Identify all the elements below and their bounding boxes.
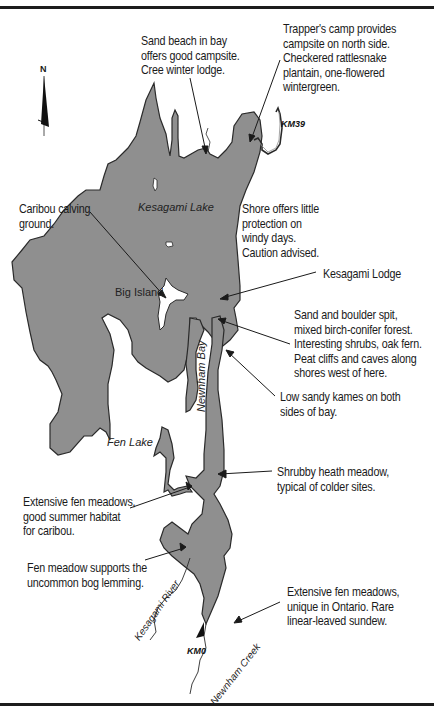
annotation-shore-caution: Shore offers little protection on windy … <box>242 202 319 260</box>
annotation-bog-lemming: Fen meadow supports the uncommon bog lem… <box>27 561 147 590</box>
leader-kames <box>228 352 275 396</box>
leader-trappers-camp <box>251 60 280 140</box>
annotation-fen-meadows-caribou: Extensive fen meadows, good summer habit… <box>23 495 135 539</box>
annotation-kesagami-lodge: Kesagami Lodge <box>323 267 401 282</box>
annotation-shrubby-heath: Shrubby heath meadow, typical of colder … <box>277 465 389 494</box>
north-label: N <box>40 64 47 74</box>
annotation-sandy-kames: Low sandy kames on both sides of bay. <box>280 390 401 419</box>
leader-shrubby-heath <box>220 471 272 474</box>
annotation-sand-boulder-spit: Sand and boulder spit, mixed birch-conif… <box>294 308 422 381</box>
arrowhead-fen-ontario <box>234 616 242 623</box>
km0-marker-label: KM0 <box>187 646 206 656</box>
km39-marker-label: KM39 <box>281 119 305 129</box>
annotation-fen-meadows-ontario: Extensive fen meadows, unique in Ontario… <box>287 585 399 629</box>
small-island-2 <box>166 242 173 247</box>
leader-sand-beach <box>190 78 206 152</box>
label-big-island: Big Island <box>115 286 163 298</box>
leader-fen-ontario <box>236 602 280 622</box>
label-kesagami-lake: Kesagami Lake <box>138 201 214 213</box>
north-arrow-icon <box>38 76 49 136</box>
annotation-sand-beach: Sand beach in bay offers good campsite. … <box>141 34 240 78</box>
fen-lake-shape <box>154 427 192 496</box>
km0-marker-icon <box>196 622 204 638</box>
annotation-caribou-calving: Caribou calving ground. <box>19 202 90 231</box>
annotation-trappers-camp: Trapper's camp provides campsite on nort… <box>283 22 396 95</box>
leader-fen-caribou <box>130 487 190 508</box>
label-fen-lake: Fen Lake <box>107 436 153 448</box>
kesagami-lake-shape <box>12 83 262 455</box>
label-newnham-bay: Newnham Bay <box>195 340 207 412</box>
